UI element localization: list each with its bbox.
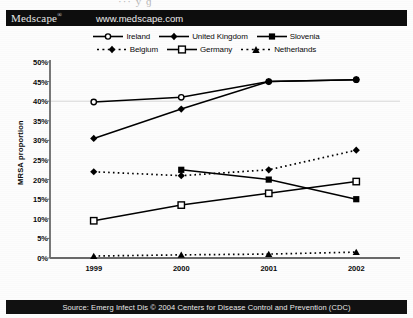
medscape-brand-logo: Medscape® [6,12,62,24]
source-attribution: Source: Emerg Infect Dis © 2004 Centers … [62,303,350,312]
registered-trademark-icon: ® [57,12,62,18]
belgium-legend-swatch [97,45,127,54]
legend-item-netherlands: Netherlands [241,45,316,54]
slovenia-legend-swatch [257,32,287,41]
screenshot-page: ··· у ɡ Medscape® www.medscape.com Irela… [0,0,413,318]
legend-label-belgium: Belgium [129,45,158,54]
x-axis-tick-label: 2002 [336,264,376,273]
x-axis-tick-label: 2001 [249,264,289,273]
chart-svg [0,56,413,288]
legend-label-netherlands: Netherlands [273,45,316,54]
germany-legend-swatch [167,45,197,54]
legend-row-1: Ireland United Kingdom Slovenia [0,30,413,43]
united-kingdom-legend-swatch [159,32,189,41]
legend-label-ireland: Ireland [125,32,150,41]
series-germany [91,178,360,224]
medscape-url: www.medscape.com [96,13,183,24]
medscape-header-bar: Medscape® www.medscape.com [6,10,407,26]
series-united-kingdom [90,76,360,142]
x-axis-tick-label: 2000 [161,264,201,273]
legend-label-slovenia: Slovenia [289,32,320,41]
x-axis-tick-label: 1999 [74,264,114,273]
brand-name: Medscape [11,12,57,24]
source-footer-bar: Source: Emerg Infect Dis © 2004 Centers … [6,300,407,314]
netherlands-legend-swatch [241,45,271,54]
legend-item-united-kingdom: United Kingdom [159,32,248,41]
chart-legend: Ireland United Kingdom Slovenia [0,30,413,56]
legend-label-united-kingdom: United Kingdom [191,32,248,41]
chart-plot-area: MRSA proportion 0%5%10%15%20%25%30%35%40… [0,56,413,288]
legend-item-germany: Germany [167,45,232,54]
legend-item-belgium: Belgium [97,45,158,54]
legend-row-2: Belgium Germany Netherlands [0,43,413,56]
legend-item-ireland: Ireland [93,32,150,41]
scan-artifact-text: ··· у ɡ [118,0,258,7]
ireland-legend-swatch [93,32,123,41]
legend-label-germany: Germany [199,45,232,54]
legend-item-slovenia: Slovenia [257,32,320,41]
